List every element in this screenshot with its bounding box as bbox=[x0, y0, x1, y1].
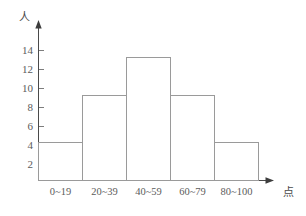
bar-3 bbox=[171, 95, 215, 181]
histogram-chart: 2 4 6 8 10 12 14 0~19 20~39 40~59 60~79 … bbox=[0, 0, 306, 216]
chart-canvas: 2 4 6 8 10 12 14 0~19 20~39 40~59 60~79 … bbox=[0, 0, 306, 216]
x-tick-label-2: 40~59 bbox=[135, 186, 162, 197]
bars-group bbox=[39, 57, 259, 181]
bar-2 bbox=[127, 57, 171, 181]
y-tick-label-2: 2 bbox=[28, 158, 34, 170]
bar-4 bbox=[215, 143, 259, 181]
y-tick-label-8: 8 bbox=[28, 101, 34, 113]
bar-1 bbox=[83, 95, 127, 181]
x-tick-labels: 0~19 20~39 40~59 60~79 80~100 bbox=[50, 186, 253, 197]
y-tick-label-4: 4 bbox=[28, 139, 34, 151]
y-tick-label-10: 10 bbox=[22, 82, 34, 94]
y-tick-label-12: 12 bbox=[22, 63, 33, 75]
x-axis-title: 点 bbox=[283, 186, 294, 199]
x-tick-label-3: 60~79 bbox=[179, 186, 206, 197]
bar-0 bbox=[39, 143, 83, 181]
x-tick-label-1: 20~39 bbox=[91, 186, 118, 197]
x-tick-label-0: 0~19 bbox=[50, 186, 71, 197]
y-axis-title: 人 bbox=[19, 11, 30, 24]
x-tick-label-4: 80~100 bbox=[221, 186, 253, 197]
x-axis-arrow-icon bbox=[266, 177, 275, 183]
y-tick-labels: 2 4 6 8 10 12 14 bbox=[22, 44, 34, 170]
y-axis-arrow-icon bbox=[35, 20, 41, 29]
y-tick-label-6: 6 bbox=[28, 120, 34, 132]
y-tick-label-14: 14 bbox=[22, 44, 34, 56]
